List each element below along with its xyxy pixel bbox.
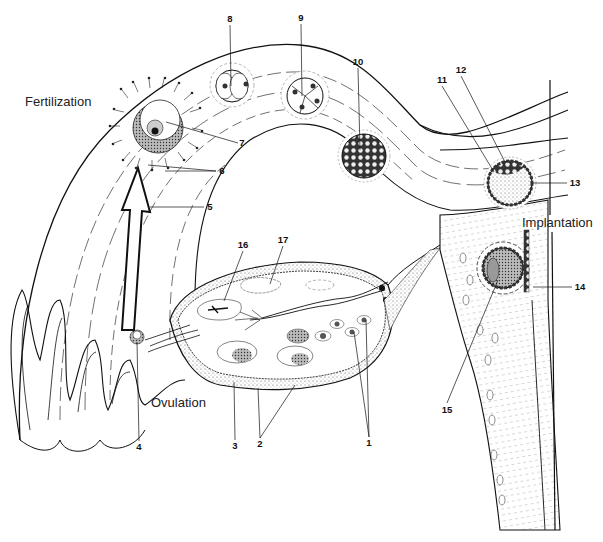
ovulation-caption: Ovulation — [151, 396, 206, 410]
diagram-illustration — [0, 0, 603, 542]
label-2: 2 — [257, 439, 262, 449]
four-cell-embryo — [281, 71, 329, 119]
label-13: 13 — [570, 178, 581, 188]
label-7: 7 — [239, 138, 244, 148]
transport-arrow — [122, 168, 150, 330]
implantation-caption: Implantation — [522, 216, 593, 230]
label-10: 10 — [353, 57, 364, 67]
two-cell-zygote — [210, 63, 254, 107]
label-15: 15 — [442, 405, 453, 415]
ovary — [170, 245, 440, 390]
morula — [338, 130, 390, 182]
label-1: 1 — [366, 438, 371, 448]
label-16: 16 — [238, 240, 249, 250]
label-17: 17 — [278, 235, 289, 245]
blastocyst — [484, 157, 536, 209]
label-9: 9 — [298, 13, 303, 23]
label-12: 12 — [456, 65, 467, 75]
label-14: 14 — [575, 282, 586, 292]
label-6: 6 — [219, 166, 224, 176]
label-5: 5 — [207, 202, 212, 212]
fimbriae — [11, 290, 185, 451]
label-11: 11 — [437, 75, 447, 85]
label-4: 4 — [136, 442, 141, 452]
label-3: 3 — [232, 441, 237, 451]
reproduction-diagram: Fertilization Ovulation Implantation 1 2… — [0, 0, 603, 542]
label-8: 8 — [227, 14, 232, 24]
fertilization-caption: Fertilization — [25, 95, 91, 109]
